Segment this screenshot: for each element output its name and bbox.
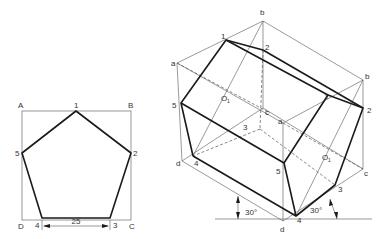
label-d-bottom: d (280, 225, 284, 234)
vertex-1: 1 (74, 101, 79, 110)
left-orthographic-view: 25 A B C D 1 2 3 4 5 (15, 101, 138, 231)
center-front-sub: 1 (227, 98, 230, 104)
center-back-sub: 1 (328, 157, 331, 163)
corner-C: C (129, 222, 135, 231)
back-vertex-5: 5 (276, 167, 281, 176)
pentagon (22, 111, 131, 218)
front-vertex-5: 5 (172, 101, 177, 110)
front-vertex-1: 1 (221, 32, 226, 41)
edge-4 (193, 156, 296, 216)
edge-1 (226, 40, 328, 95)
back-vertex-1: 1 (324, 92, 329, 101)
diag-back (296, 80, 363, 216)
vertex-5: 5 (15, 149, 20, 158)
back-vertex-4: 4 (297, 216, 302, 225)
box-top-edges (177, 21, 363, 80)
back-vertex-2: 2 (367, 106, 372, 115)
label-c-right: c (364, 169, 368, 178)
isometric-view: 30° 30° b b a a c c d d 1 2 3 4 5 1 2 3 … (171, 8, 372, 234)
vertex-3: 3 (113, 221, 118, 230)
corner-A: A (18, 101, 24, 110)
hidden-edge-2-3 (260, 50, 263, 129)
technical-drawing: 25 A B C D 1 2 3 4 5 (0, 0, 389, 239)
front-vertex-3: 3 (243, 123, 248, 132)
angle-right-label: 30° (310, 206, 322, 215)
label-d-left: d (176, 159, 180, 168)
angle-left-label: 30° (245, 208, 257, 217)
front-vertex-2: 2 (265, 43, 270, 52)
label-a-mid: a (278, 117, 283, 126)
dim-arrow-left (43, 224, 50, 228)
front-vertex-4: 4 (194, 159, 199, 168)
edge-2 (263, 50, 363, 108)
box-edge-a-d (177, 63, 182, 161)
vertex-4: 4 (35, 221, 40, 230)
dim-arrow-right (102, 224, 109, 228)
label-c-back: c (265, 108, 269, 117)
dimension-label: 25 (72, 217, 81, 226)
label-b-top: b (260, 8, 265, 17)
corner-B: B (128, 101, 133, 110)
label-a-left: a (171, 59, 176, 68)
box-edge-c-d (182, 108, 263, 161)
label-b-right: b (365, 72, 370, 81)
vertex-2: 2 (133, 149, 138, 158)
back-vertex-3: 3 (338, 185, 343, 194)
corner-D: D (18, 222, 24, 231)
box-edge-d-d (182, 161, 283, 221)
